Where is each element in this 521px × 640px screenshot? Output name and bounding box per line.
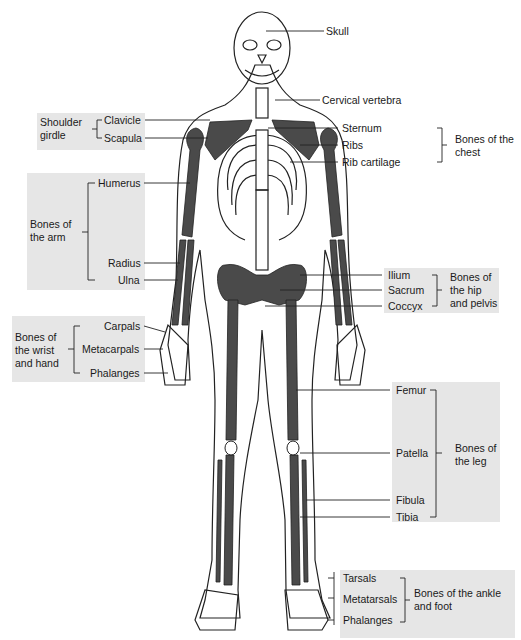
label-ulna: Ulna <box>118 274 140 286</box>
group-hip-pelvis: Bones of the hip and pelvis <box>450 271 500 310</box>
label-humerus: Humerus <box>98 177 141 189</box>
spine-shape <box>256 190 268 270</box>
group-ankle-foot: Bones of the ankle and foot <box>414 587 514 613</box>
group-shoulder-girdle: Shoulder girdle <box>40 116 90 142</box>
patella-right-shape <box>287 441 299 455</box>
label-rib-cartilage: Rib cartilage <box>342 156 400 168</box>
label-phalanges-hand: Phalanges <box>90 367 140 379</box>
patella-left-shape <box>225 441 237 455</box>
group-leg: Bones of the leg <box>455 442 500 468</box>
label-phalanges-foot: Phalanges <box>343 614 393 626</box>
label-scapula: Scapula <box>104 132 142 144</box>
scapula-left-shape <box>205 120 252 160</box>
label-sacrum: Sacrum <box>388 284 424 296</box>
femur-right-shape <box>286 300 298 440</box>
label-metacarpals: Metacarpals <box>82 343 139 355</box>
label-radius: Radius <box>108 257 141 269</box>
label-femur: Femur <box>396 384 426 396</box>
skull-shape <box>234 12 290 84</box>
label-patella: Patella <box>396 447 428 459</box>
humerus-left-shape <box>182 128 203 237</box>
skeleton-illustration <box>0 0 521 640</box>
sternum-shape <box>256 130 268 190</box>
group-chest: Bones of the chest <box>455 133 515 159</box>
label-fibula: Fibula <box>396 494 425 506</box>
group-wrist-hand: Bones of the wrist and hand <box>15 331 70 370</box>
scapula-right-shape <box>272 120 319 160</box>
label-coccyx: Coccyx <box>388 300 422 312</box>
femur-left-shape <box>226 300 238 440</box>
label-tibia: Tibia <box>396 511 418 523</box>
humerus-right-shape <box>321 128 342 237</box>
label-ilium: Ilium <box>388 269 410 281</box>
label-ribs: Ribs <box>342 139 363 151</box>
label-tarsals: Tarsals <box>343 572 376 584</box>
label-cervical-vertebra: Cervical vertebra <box>322 94 401 106</box>
label-skull: Skull <box>326 25 349 37</box>
label-metatarsals: Metatarsals <box>343 593 397 605</box>
label-carpals: Carpals <box>104 320 140 332</box>
group-arm: Bones of the arm <box>30 218 82 244</box>
label-sternum: Sternum <box>342 122 382 134</box>
label-clavicle: Clavicle <box>104 114 141 126</box>
